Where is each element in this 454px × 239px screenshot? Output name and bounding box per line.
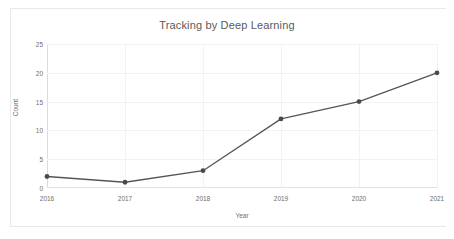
series-line [47,73,437,182]
data-point-marker [123,180,128,185]
y-tick-label: 10 [19,127,43,134]
data-point-marker [201,168,206,173]
y-tick-label: 25 [19,41,43,48]
x-tick-label: 2019 [274,195,288,202]
chart-title: Tracking by Deep Learning [0,19,454,31]
y-tick-label: 5 [19,156,43,163]
chart-figure: Tracking by Deep Learning Count 05101520… [0,0,454,239]
x-axis-label: Year [47,212,437,219]
data-point-marker [357,99,362,104]
y-axis-tick-labels: 0510152025 [17,44,43,188]
y-tick-label: 20 [19,69,43,76]
line-series [47,44,437,188]
data-point-marker [45,174,50,179]
y-tick-label: 0 [19,185,43,192]
x-tick-label: 2021 [430,195,444,202]
gridline-vertical [437,44,438,188]
plot-area [47,44,437,188]
x-tick-label: 2020 [352,195,366,202]
x-tick-label: 2018 [196,195,210,202]
x-axis-tick-labels: 201620172018201920202021 [47,195,437,207]
data-point-marker [435,70,440,75]
x-tick-label: 2016 [40,195,54,202]
y-tick-label: 15 [19,98,43,105]
x-tick-label: 2017 [118,195,132,202]
data-point-marker [279,116,284,121]
